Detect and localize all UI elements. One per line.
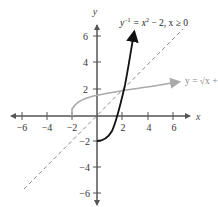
sqrt-function-label: y = √x + bbox=[185, 76, 218, 86]
y-tick-label: −6 bbox=[79, 188, 90, 199]
function-graph: −6 −4 −2 2 4 6 6 4 2 −2 −4 −6 x y y−1 = … bbox=[0, 0, 218, 207]
y-tick-label: −2 bbox=[79, 136, 90, 147]
y-tick-label: 6 bbox=[83, 31, 88, 42]
x-tick-label: −4 bbox=[42, 122, 53, 133]
x-tick-label: 6 bbox=[172, 122, 177, 133]
y-tick-label: 2 bbox=[83, 84, 88, 95]
x-tick-label: −6 bbox=[17, 122, 28, 133]
y-axis bbox=[93, 25, 101, 205]
y-axis-label: y bbox=[92, 6, 98, 17]
inverse-function-label: y−1 = x2 − 2, x ≥ 0 bbox=[119, 17, 188, 28]
inverse-curve bbox=[97, 33, 134, 141]
x-axis bbox=[11, 112, 190, 120]
x-tick-label: −2 bbox=[67, 122, 78, 133]
x-tick-label: 4 bbox=[147, 122, 152, 133]
x-axis-label: x bbox=[195, 111, 201, 122]
x-tick-label: 2 bbox=[121, 122, 126, 133]
identity-line bbox=[24, 29, 183, 189]
y-tick-label: 4 bbox=[83, 57, 88, 68]
y-tick-label: −4 bbox=[79, 162, 90, 173]
